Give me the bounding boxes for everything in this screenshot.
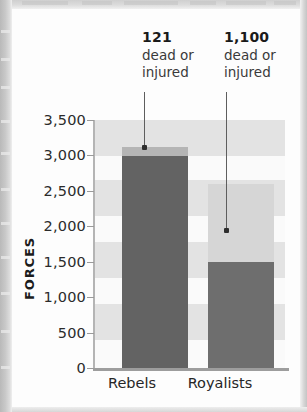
annotation-leader-dot-royalists <box>224 228 229 233</box>
annotation-royalists: 1,100 dead or injured <box>224 29 304 81</box>
scanned-page: 3,500 3,000 2,500 2,000 1,500 1,000 500 … <box>0 0 307 412</box>
page-edge-top <box>12 0 307 9</box>
y-tick-mark <box>87 333 94 334</box>
annotation-number: 1,100 <box>224 29 304 47</box>
annotation-leader-line-royalists <box>226 92 227 230</box>
annotation-line-2: injured <box>224 64 304 81</box>
y-tick-label: 3,000 <box>28 148 86 163</box>
bar-rebels <box>122 147 188 368</box>
y-axis-title: FORCES <box>22 226 37 312</box>
plot-area <box>95 120 285 368</box>
y-tick-mark <box>87 155 94 156</box>
bar-chart: 3,500 3,000 2,500 2,000 1,500 1,000 500 … <box>12 9 300 407</box>
bar-segment-rebels-surviving <box>122 156 188 368</box>
x-tick-label-rebels: Rebels <box>92 375 172 391</box>
bar-royalists <box>208 184 274 368</box>
page-edge-bottom <box>12 407 307 412</box>
annotation-leader-line-rebels <box>144 92 145 147</box>
annotation-leader-dot-rebels <box>142 145 147 150</box>
x-tick-label-royalists: Royalists <box>174 375 266 391</box>
y-tick-mark <box>87 297 94 298</box>
bar-segment-royalists-surviving <box>208 262 274 368</box>
y-tick-label: 1,000 <box>28 290 86 305</box>
page-edge-left <box>0 0 12 412</box>
y-tick-label: 2,000 <box>28 219 86 234</box>
annotation-line-1: dead or <box>142 47 222 64</box>
y-axis-spine <box>93 120 95 369</box>
y-tick-label: 500 <box>28 326 86 341</box>
y-tick-label: 3,500 <box>28 113 86 128</box>
y-tick-mark <box>87 191 94 192</box>
y-tick-mark <box>87 262 94 263</box>
annotation-rebels: 121 dead or injured <box>142 29 222 81</box>
y-tick-label: 1,500 <box>28 255 86 270</box>
y-tick-mark <box>87 368 94 369</box>
annotation-number: 121 <box>142 29 222 47</box>
y-tick-label: 0 <box>28 361 86 376</box>
bar-segment-rebels-casualties <box>122 147 188 156</box>
annotation-line-2: injured <box>142 64 222 81</box>
x-axis-baseline <box>93 368 289 371</box>
bar-segment-royalists-casualties <box>208 184 274 262</box>
y-tick-label: 2,500 <box>28 184 86 199</box>
y-tick-mark <box>87 226 94 227</box>
annotation-line-1: dead or <box>224 47 304 64</box>
y-tick-mark <box>87 120 94 121</box>
y-axis-labels: 3,500 3,000 2,500 2,000 1,500 1,000 500 … <box>20 9 86 407</box>
